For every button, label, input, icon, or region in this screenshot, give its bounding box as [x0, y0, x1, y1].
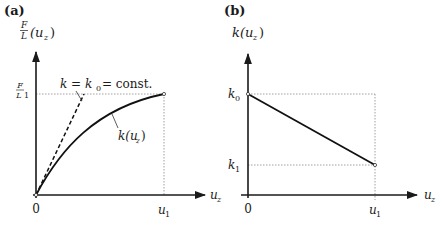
- svg-text:L: L: [20, 31, 27, 41]
- panel-a-y-tick-FL1: F L 1: [15, 81, 29, 100]
- diagram: (a) F L (u z ) F L 1: [0, 0, 443, 231]
- svg-text:(u: (u: [30, 25, 43, 40]
- panel-b-end-point: [373, 163, 376, 166]
- panel-b: (b) k(u z ) k 0 k 1 0 u 1: [224, 3, 436, 219]
- panel-b-y-tick-k1: k 1: [228, 158, 240, 174]
- svg-text:k(u: k(u: [118, 129, 138, 143]
- svg-text:1: 1: [376, 210, 381, 219]
- panel-b-y-tick-k0: k 0: [228, 87, 240, 103]
- panel-b-x-tick-u1: u 1: [369, 203, 381, 219]
- panel-a-end-point: [162, 92, 165, 95]
- panel-b-label: (b): [224, 3, 245, 18]
- panel-a-label: (a): [4, 3, 25, 18]
- panel-a-annotation-k-curve: k(u z ): [112, 114, 146, 145]
- panel-b-y-axis-label: k(u z ): [232, 25, 264, 42]
- panel-a-origin-point: [34, 193, 37, 196]
- svg-text:L: L: [15, 91, 21, 100]
- svg-text:F: F: [20, 20, 28, 30]
- svg-text:z: z: [135, 137, 140, 145]
- panel-b-start-point: [246, 92, 249, 95]
- svg-text:z: z: [252, 33, 258, 42]
- svg-text:z: z: [430, 195, 436, 204]
- svg-text:k = k: k = k: [60, 77, 92, 91]
- svg-text:1: 1: [165, 210, 170, 219]
- svg-text:z: z: [216, 195, 222, 204]
- panel-b-x-axis-label: u z: [424, 188, 436, 204]
- panel-a-k-curve: [36, 94, 164, 195]
- svg-text:): ): [141, 129, 146, 143]
- panel-b-k-line: [248, 94, 375, 165]
- svg-text:1: 1: [235, 165, 240, 174]
- panel-a-annotation-constant-k: k = k 0 = const.: [60, 77, 152, 101]
- panel-a-x-axis-label: u z: [210, 188, 222, 204]
- panel-a-y-axis-label: F L (u z ): [20, 20, 55, 42]
- svg-text:): ): [50, 25, 55, 40]
- svg-text:): ): [259, 25, 264, 40]
- panel-a-constant-k-line: [36, 94, 84, 195]
- svg-text:k(u: k(u: [232, 25, 253, 40]
- panel-a-x-tick-0: 0: [32, 202, 40, 216]
- svg-text:0: 0: [235, 94, 240, 103]
- panel-a-x-tick-u1: u 1: [158, 203, 170, 219]
- svg-text:z: z: [43, 33, 49, 42]
- svg-text:0: 0: [96, 84, 101, 93]
- svg-text:1: 1: [24, 91, 29, 100]
- panel-b-x-tick-0: 0: [244, 202, 252, 216]
- panel-a: (a) F L (u z ) F L 1: [4, 3, 222, 219]
- svg-text:F: F: [16, 81, 23, 90]
- svg-text:= const.: = const.: [102, 77, 152, 91]
